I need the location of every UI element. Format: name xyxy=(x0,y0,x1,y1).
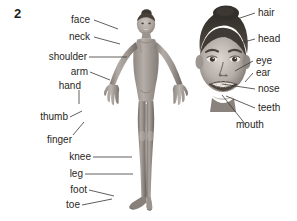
label-neck: neck xyxy=(69,32,90,42)
exercise-number: 2 xyxy=(14,6,21,21)
label-ear: ear xyxy=(256,68,270,78)
label-shoulder: shoulder xyxy=(49,52,87,62)
worksheet-page: 2 xyxy=(0,0,297,221)
label-hand: hand xyxy=(59,81,81,91)
label-knee: knee xyxy=(69,152,91,162)
label-mouth: mouth xyxy=(236,120,264,130)
label-eye: eye xyxy=(256,56,272,66)
leader-thumb xyxy=(70,111,82,117)
label-teeth: teeth xyxy=(258,103,280,113)
label-leg: leg xyxy=(70,169,83,179)
label-head: head xyxy=(258,34,280,44)
leader-finger xyxy=(73,122,84,135)
label-face: face xyxy=(71,15,90,25)
label-thumb: thumb xyxy=(40,112,68,122)
label-toe: toe xyxy=(66,200,80,210)
label-nose: nose xyxy=(258,84,280,94)
label-finger: finger xyxy=(47,135,72,145)
label-arm: arm xyxy=(71,67,88,77)
face-photo xyxy=(192,4,258,112)
full-body-photo xyxy=(103,8,189,214)
label-hair: hair xyxy=(258,8,275,18)
label-foot: foot xyxy=(70,185,87,195)
